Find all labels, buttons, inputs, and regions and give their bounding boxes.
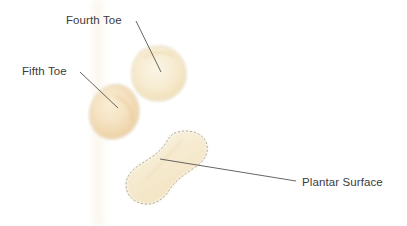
annotation-label-fourth-toe: Fourth Toe — [66, 14, 122, 26]
fourth-toe-tissue — [132, 46, 187, 101]
annotation-label-plantar-surface: Plantar Surface — [302, 176, 383, 188]
plantar-surface-tissue — [126, 131, 207, 204]
annotation-label-fifth-toe: Fifth Toe — [22, 65, 67, 77]
figure-root: Fourth Toe Fifth Toe Plantar Surface — [0, 0, 407, 226]
fourth-toe-tissue-body — [132, 46, 187, 101]
specimen-figure-canvas — [0, 0, 407, 226]
